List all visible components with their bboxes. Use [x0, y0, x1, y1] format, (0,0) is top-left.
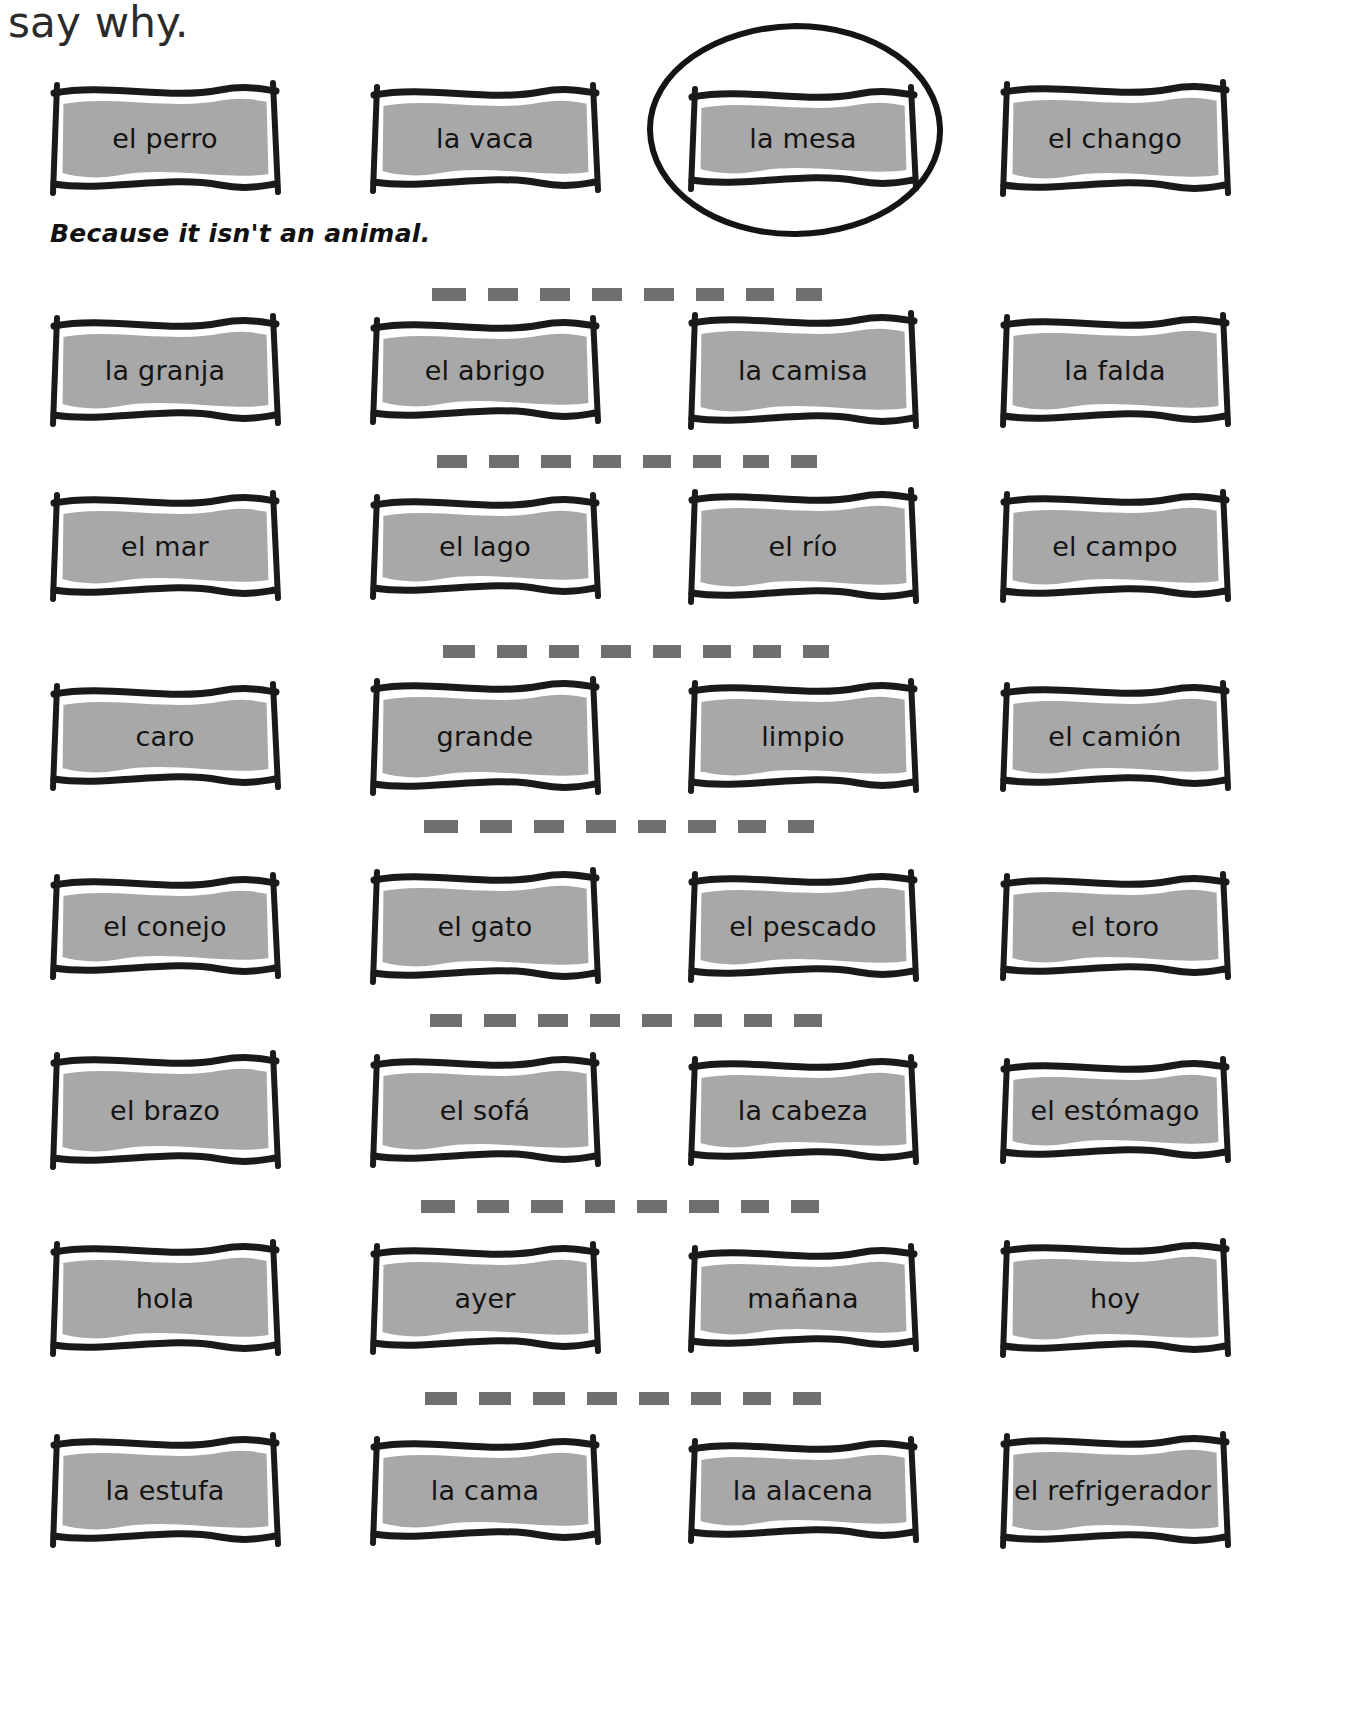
- separator-dash: [639, 1392, 669, 1405]
- separator-dash: [689, 1200, 719, 1213]
- separator-dash: [796, 288, 822, 301]
- card-label: el brazo: [40, 1050, 290, 1170]
- vocab-card[interactable]: ayer: [360, 1238, 610, 1358]
- card-label: el lago: [360, 486, 610, 606]
- separator-dash: [688, 820, 716, 833]
- vocab-card[interactable]: el refrigerador: [990, 1430, 1240, 1550]
- card-row: el conejo el gato el pescado el toro: [0, 866, 1346, 986]
- separator-dash: [788, 820, 814, 833]
- vocab-card[interactable]: el chango: [990, 78, 1240, 198]
- separator-dash: [743, 455, 769, 468]
- separator-dash: [642, 1014, 672, 1027]
- dashed-separator: [443, 645, 829, 658]
- card-label: la cabeza: [678, 1050, 928, 1170]
- answer-text: Because it isn't an animal.: [50, 219, 431, 248]
- separator-dash: [437, 455, 467, 468]
- card-label: el perro: [40, 78, 290, 198]
- card-label: el mar: [40, 486, 290, 606]
- card-row: hola ayer mañana hoy: [0, 1238, 1346, 1358]
- card-label: la estufa: [40, 1430, 290, 1550]
- vocab-card[interactable]: el conejo: [40, 866, 290, 986]
- separator-dash: [497, 645, 527, 658]
- dashed-separator: [430, 1014, 822, 1027]
- vocab-card[interactable]: grande: [360, 676, 610, 796]
- vocab-card[interactable]: el sofá: [360, 1050, 610, 1170]
- vocab-card[interactable]: el gato: [360, 866, 610, 986]
- card-label: la vaca: [360, 78, 610, 198]
- vocab-card[interactable]: el brazo: [40, 1050, 290, 1170]
- separator-dash: [791, 1200, 819, 1213]
- separator-dash: [586, 820, 616, 833]
- vocab-card[interactable]: el camión: [990, 676, 1240, 796]
- vocab-card[interactable]: mañana: [678, 1238, 928, 1358]
- vocab-card[interactable]: hola: [40, 1238, 290, 1358]
- vocab-card[interactable]: la mesa: [678, 78, 928, 198]
- vocab-card[interactable]: la vaca: [360, 78, 610, 198]
- card-label: la camisa: [678, 310, 928, 430]
- vocab-card[interactable]: el lago: [360, 486, 610, 606]
- separator-dash: [592, 288, 622, 301]
- separator-dash: [703, 645, 731, 658]
- separator-dash: [425, 1392, 457, 1405]
- vocab-card[interactable]: el toro: [990, 866, 1240, 986]
- card-label: el conejo: [40, 866, 290, 986]
- vocab-card[interactable]: el perro: [40, 78, 290, 198]
- separator-dash: [533, 1392, 565, 1405]
- worksheet-page: say why. Because it isn't an animal. el …: [0, 0, 1346, 1712]
- separator-dash: [653, 645, 681, 658]
- vocab-card[interactable]: el estómago: [990, 1050, 1240, 1170]
- card-row: la estufa la cama la alacena el refriger…: [0, 1430, 1346, 1550]
- separator-dash: [534, 820, 564, 833]
- card-label: la falda: [990, 310, 1240, 430]
- dashed-separator: [424, 820, 814, 833]
- vocab-card[interactable]: la granja: [40, 310, 290, 430]
- card-label: la cama: [360, 1430, 610, 1550]
- card-label: la granja: [40, 310, 290, 430]
- card-label: el gato: [360, 866, 610, 986]
- card-label: ayer: [360, 1238, 610, 1358]
- vocab-card[interactable]: la camisa: [678, 310, 928, 430]
- separator-dash: [643, 455, 671, 468]
- card-label: grande: [360, 676, 610, 796]
- separator-dash: [637, 1200, 667, 1213]
- vocab-card[interactable]: el pescado: [678, 866, 928, 986]
- separator-dash: [540, 288, 570, 301]
- card-row: el mar el lago el río el campo: [0, 486, 1346, 606]
- card-label: el campo: [990, 486, 1240, 606]
- separator-dash: [538, 1014, 568, 1027]
- dashed-separator: [432, 288, 822, 301]
- vocab-card[interactable]: la falda: [990, 310, 1240, 430]
- vocab-card[interactable]: el abrigo: [360, 310, 610, 430]
- card-row: el perro la vaca la mesa el chango: [0, 78, 1346, 198]
- vocab-card[interactable]: la cama: [360, 1430, 610, 1550]
- vocab-card[interactable]: caro: [40, 676, 290, 796]
- vocab-card[interactable]: la cabeza: [678, 1050, 928, 1170]
- dashed-separator: [437, 455, 817, 468]
- separator-dash: [590, 1014, 620, 1027]
- separator-dash: [432, 288, 466, 301]
- separator-dash: [696, 288, 724, 301]
- separator-dash: [585, 1200, 615, 1213]
- vocab-card[interactable]: hoy: [990, 1238, 1240, 1358]
- separator-dash: [741, 1200, 769, 1213]
- separator-dash: [443, 645, 475, 658]
- separator-dash: [791, 455, 817, 468]
- page-title: say why.: [8, 0, 189, 47]
- card-label: caro: [40, 676, 290, 796]
- vocab-card[interactable]: el campo: [990, 486, 1240, 606]
- card-label: el río: [678, 486, 928, 606]
- card-label: el sofá: [360, 1050, 610, 1170]
- separator-dash: [549, 645, 579, 658]
- card-label: el toro: [990, 866, 1240, 986]
- vocab-card[interactable]: la alacena: [678, 1430, 928, 1550]
- vocab-card[interactable]: el río: [678, 486, 928, 606]
- separator-dash: [744, 1014, 772, 1027]
- dashed-separator: [425, 1392, 821, 1405]
- vocab-card[interactable]: el mar: [40, 486, 290, 606]
- separator-dash: [793, 1392, 821, 1405]
- card-label: mañana: [678, 1238, 928, 1358]
- separator-dash: [430, 1014, 462, 1027]
- card-label: limpio: [678, 676, 928, 796]
- vocab-card[interactable]: la estufa: [40, 1430, 290, 1550]
- vocab-card[interactable]: limpio: [678, 676, 928, 796]
